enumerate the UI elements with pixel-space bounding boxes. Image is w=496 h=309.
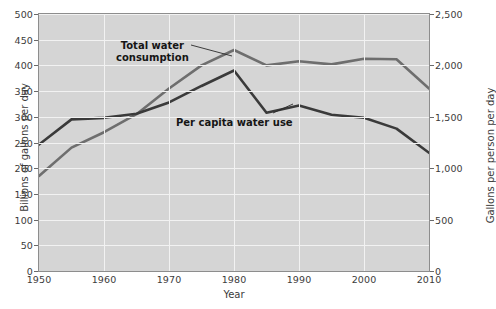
annotation-capita-line1: Per capita water use: [176, 117, 293, 129]
y-tick-mark-left: [34, 220, 38, 221]
y-tick-mark-right: [430, 14, 434, 15]
plot-area: [38, 13, 430, 272]
x-tick: 1950: [27, 274, 52, 285]
annotation-total-line1: Total water: [116, 40, 189, 52]
y-axis-right-title: Gallons per person per day: [485, 56, 496, 256]
y-tick-mark-left: [34, 168, 38, 169]
y-tick-mark-right: [430, 168, 434, 169]
y-tick-mark-left: [34, 40, 38, 41]
y-tick-right: 1,000: [435, 163, 475, 174]
y-tick-mark-left: [34, 245, 38, 246]
y-tick-mark-left: [34, 91, 38, 92]
y-tick-right: 1,500: [435, 111, 475, 122]
y-tick-mark-left: [34, 271, 38, 272]
annotation-total-water-consumption: Total water consumption: [116, 40, 189, 63]
y-tick-mark-left: [34, 14, 38, 15]
y-tick-right: 2,500: [435, 9, 475, 20]
y-tick-mark-right: [430, 65, 434, 66]
x-tick: 1990: [287, 274, 312, 285]
gridline-vertical: [364, 14, 365, 271]
gridline-vertical: [299, 14, 300, 271]
y-axis-left-title: Billions of gallons per day: [19, 48, 30, 248]
gridline-vertical: [104, 14, 105, 271]
annotation-per-capita-water-use: Per capita water use: [176, 117, 293, 129]
y-tick-right: 2,000: [435, 60, 475, 71]
y-tick-mark-right: [430, 271, 434, 272]
y-tick-mark-left: [34, 194, 38, 195]
y-tick-left: 500: [0, 9, 33, 20]
annotation-total-line2: consumption: [116, 52, 189, 64]
x-tick: 1970: [157, 274, 182, 285]
x-tick: 1960: [92, 274, 117, 285]
x-tick: 2000: [352, 274, 377, 285]
y-tick-mark-left: [34, 143, 38, 144]
y-tick-mark-left: [34, 117, 38, 118]
y-tick-mark-right: [430, 117, 434, 118]
gridline-vertical: [234, 14, 235, 271]
x-tick: 1980: [222, 274, 247, 285]
y-tick-left: 450: [0, 34, 33, 45]
y-tick-mark-right: [430, 220, 434, 221]
x-axis-title: Year: [38, 289, 430, 300]
x-tick: 2010: [417, 274, 442, 285]
y-tick-right: 500: [435, 214, 475, 225]
y-tick-mark-left: [34, 65, 38, 66]
